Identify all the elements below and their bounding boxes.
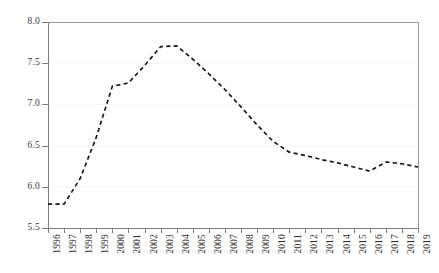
line-chart: 5.56.06.57.07.58.0 199619971998199920002…: [0, 0, 439, 273]
data-series-layer: [0, 0, 439, 273]
series-1-line: [48, 46, 418, 204]
